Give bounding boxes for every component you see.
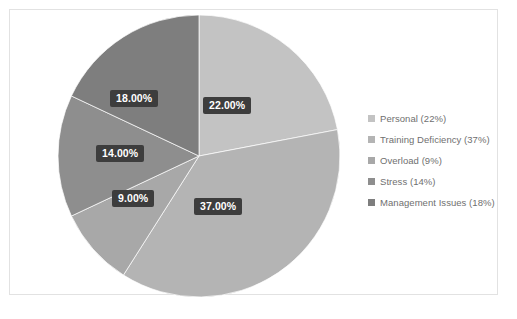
- legend-item-label: Overload (9%): [380, 155, 442, 166]
- chart-legend: Personal (22%)Training Deficiency (37%)O…: [368, 108, 503, 213]
- pie-data-label-training-deficiency: 37.00%: [194, 198, 242, 215]
- pie-data-label-overload: 9.00%: [112, 190, 154, 207]
- legend-swatch-icon: [368, 157, 375, 164]
- legend-item-label: Stress (14%): [380, 176, 436, 187]
- legend-swatch-icon: [368, 115, 375, 122]
- legend-item-overload[interactable]: Overload (9%): [368, 150, 503, 170]
- legend-item-label: Personal (22%): [380, 113, 446, 124]
- pie-data-label-stress: 14.00%: [96, 145, 144, 162]
- legend-item-training-deficiency[interactable]: Training Deficiency (37%): [368, 129, 503, 149]
- pie-data-label-personal: 22.00%: [203, 97, 251, 114]
- pie-chart-plot-area: 22.00%37.00%9.00%14.00%18.00% Personal (…: [0, 0, 517, 319]
- legend-item-stress[interactable]: Stress (14%): [368, 171, 503, 191]
- legend-swatch-icon: [368, 178, 375, 185]
- legend-item-label: Training Deficiency (37%): [380, 134, 490, 145]
- pie-data-label-management-issues: 18.00%: [110, 90, 158, 107]
- legend-swatch-icon: [368, 199, 375, 206]
- legend-item-label: Management Issues (18%): [380, 197, 495, 208]
- legend-item-personal[interactable]: Personal (22%): [368, 108, 503, 128]
- legend-item-management-issues[interactable]: Management Issues (18%): [368, 192, 503, 212]
- legend-swatch-icon: [368, 136, 375, 143]
